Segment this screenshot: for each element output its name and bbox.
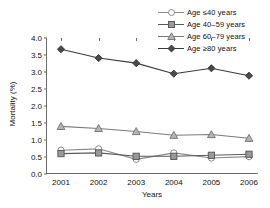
x-axis-tick-mark <box>61 38 62 41</box>
series-layer <box>47 38 259 174</box>
data-point-marker <box>169 10 175 16</box>
series-line <box>61 153 249 156</box>
y-axis-tick-mark <box>44 89 47 90</box>
legend-item-label: Age ≤40 years <box>184 7 237 18</box>
x-axis-tick-mark <box>174 38 175 41</box>
y-axis-tick-mark <box>44 157 47 158</box>
data-point-marker <box>133 60 140 67</box>
mortality-by-age-line-chart: Age ≤40 yearsAge 40–59 yearsAge 60–79 ye… <box>0 0 270 208</box>
data-point-marker <box>57 46 64 53</box>
y-axis-tick-mark <box>44 72 47 73</box>
x-axis-tick-mark <box>99 38 100 41</box>
x-axis-tick-label: 2001 <box>52 173 70 187</box>
data-point-marker <box>245 72 252 79</box>
data-point-marker <box>208 65 215 72</box>
data-point-marker <box>208 152 214 158</box>
legend-marker <box>167 8 176 17</box>
y-axis-tick-mark <box>44 140 47 141</box>
series-line <box>61 49 249 76</box>
x-axis-title: Years <box>46 190 258 199</box>
data-point-marker <box>246 151 252 157</box>
x-axis-tick-label: 2002 <box>90 173 108 187</box>
x-axis-tick-mark <box>211 38 212 41</box>
series-3 <box>57 46 252 80</box>
series-line <box>61 126 249 138</box>
data-point-marker <box>95 54 102 61</box>
y-axis-tick-mark <box>44 106 47 107</box>
data-point-marker <box>133 153 139 159</box>
legend-square-icon <box>158 19 184 30</box>
x-axis-tick-label: 2003 <box>127 173 145 187</box>
plot-area: 0.00.51.01.52.02.53.03.54.02001200220032… <box>46 38 258 174</box>
data-point-marker <box>171 153 177 159</box>
x-axis-tick-label: 2005 <box>202 173 220 187</box>
data-point-marker <box>170 70 177 77</box>
x-axis-tick-label: 2004 <box>165 173 183 187</box>
legend-circle-icon <box>158 7 184 18</box>
x-axis-tick-mark <box>249 38 250 41</box>
series-line <box>61 149 249 160</box>
y-axis-title: Mortality (%) <box>8 44 17 164</box>
y-axis-tick-mark <box>44 38 47 39</box>
y-axis-tick-mark <box>44 55 47 56</box>
legend-item-1[interactable]: Age 40–59 years <box>158 19 245 30</box>
y-axis-tick-mark <box>44 123 47 124</box>
data-point-marker <box>96 150 102 156</box>
data-point-marker <box>169 22 175 28</box>
legend-item-label: Age 40–59 years <box>184 19 245 30</box>
legend-item-0[interactable]: Age ≤40 years <box>158 7 245 18</box>
x-axis-tick-label: 2006 <box>240 173 258 187</box>
legend-marker <box>167 20 176 29</box>
data-point-marker <box>58 151 64 157</box>
series-0 <box>58 146 252 163</box>
x-axis-tick-mark <box>136 38 137 41</box>
series-2 <box>57 123 253 142</box>
y-axis-tick-mark <box>44 174 47 175</box>
